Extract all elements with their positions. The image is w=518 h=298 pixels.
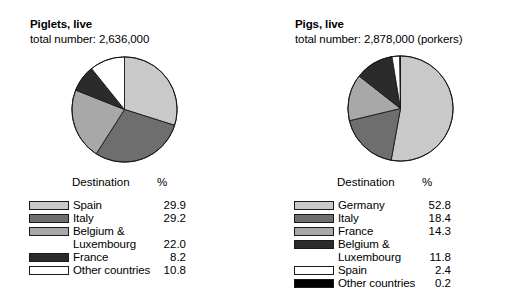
legend-item-percent: 8.2 bbox=[146, 251, 186, 263]
legend-header-row: Destination % bbox=[0, 176, 259, 192]
piglets-chart-panel: Piglets, live total number: 2,636,000 De… bbox=[0, 0, 259, 298]
legend-color-swatch bbox=[294, 201, 334, 210]
legend-item: Italy29.2 bbox=[0, 212, 259, 225]
legend-color-swatch bbox=[294, 227, 334, 236]
legend-item: Belgium & bbox=[0, 225, 259, 238]
legend-item: Other countries10.8 bbox=[0, 264, 259, 277]
legend-item-percent: 29.9 bbox=[146, 199, 186, 211]
legend-header-percent: % bbox=[422, 176, 432, 188]
legend-item-label: France bbox=[338, 225, 373, 237]
legend-item: Luxembourg11.8 bbox=[259, 251, 518, 264]
legend-color-swatch bbox=[294, 240, 334, 249]
legend-item: Luxembourg22.0 bbox=[0, 238, 259, 251]
legend-color-swatch bbox=[294, 266, 334, 275]
legend-header-row: Destination % bbox=[259, 176, 518, 192]
legend-item: France14.3 bbox=[259, 225, 518, 238]
legend-color-swatch bbox=[29, 214, 69, 223]
legend-item-label: Italy bbox=[338, 212, 359, 224]
piglets-pie-chart bbox=[71, 56, 178, 163]
legend-color-swatch bbox=[294, 214, 334, 223]
legend-item-percent: 11.8 bbox=[411, 251, 451, 263]
legend-item-label: Belgium & bbox=[73, 225, 125, 237]
right-total-number: total number: 2,878,000 (porkers) bbox=[295, 32, 462, 46]
legend-item-label: Germany bbox=[338, 199, 385, 211]
pigs-pie-svg bbox=[347, 55, 454, 162]
legend-item: Italy18.4 bbox=[259, 212, 518, 225]
legend-item-label: Belgium & bbox=[338, 238, 390, 250]
legend-item-percent: 10.8 bbox=[146, 264, 186, 276]
pigs-chart-panel: Pigs, live total number: 2,878,000 (pork… bbox=[259, 0, 518, 298]
legend-item-percent: 52.8 bbox=[411, 199, 451, 211]
legend-item: Germany52.8 bbox=[259, 199, 518, 212]
legend-item: France8.2 bbox=[0, 251, 259, 264]
pigs-legend: Destination % Germany52.8Italy18.4France… bbox=[259, 176, 518, 290]
legend-rows: Germany52.8Italy18.4France14.3Belgium &L… bbox=[259, 199, 518, 290]
page-title-secondary: Pigs, live bbox=[295, 17, 462, 31]
legend-item-label: Spain bbox=[73, 199, 102, 211]
legend-header-destination: Destination bbox=[72, 176, 130, 188]
legend-item: Spain29.9 bbox=[0, 199, 259, 212]
legend-item-label: Spain bbox=[338, 264, 367, 276]
legend-color-swatch bbox=[29, 253, 69, 262]
legend-color-swatch bbox=[29, 227, 69, 236]
piglets-legend: Destination % Spain29.9Italy29.2Belgium … bbox=[0, 176, 259, 277]
legend-item: Other countries0.2 bbox=[259, 277, 518, 290]
legend-item-label: Luxembourg bbox=[338, 251, 401, 263]
legend-item-percent: 0.2 bbox=[411, 277, 451, 289]
legend-item: Belgium & bbox=[259, 238, 518, 251]
legend-item-percent: 22.0 bbox=[146, 238, 186, 250]
legend-color-swatch bbox=[294, 279, 334, 288]
left-title-block: Piglets, live total number: 2,636,000 bbox=[30, 17, 149, 46]
legend-item-label: Italy bbox=[73, 212, 94, 224]
legend-item-label: Other countries bbox=[73, 264, 150, 276]
legend-color-swatch bbox=[29, 266, 69, 275]
piglets-pie-svg bbox=[71, 56, 178, 163]
legend-item-percent: 29.2 bbox=[146, 212, 186, 224]
legend-rows: Spain29.9Italy29.2Belgium &Luxembourg22.… bbox=[0, 199, 259, 277]
legend-header-destination: Destination bbox=[337, 176, 395, 188]
legend-item: Spain2.4 bbox=[259, 264, 518, 277]
legend-item-label: Luxembourg bbox=[73, 238, 136, 250]
legend-item-percent: 14.3 bbox=[411, 225, 451, 237]
left-total-number: total number: 2,636,000 bbox=[30, 32, 149, 46]
page-title: Piglets, live bbox=[30, 17, 149, 31]
legend-header-percent: % bbox=[157, 176, 167, 188]
right-title-block: Pigs, live total number: 2,878,000 (pork… bbox=[295, 17, 462, 46]
legend-color-swatch bbox=[29, 201, 69, 210]
legend-item-label: France bbox=[73, 251, 108, 263]
legend-item-percent: 18.4 bbox=[411, 212, 451, 224]
legend-item-percent: 2.4 bbox=[411, 264, 451, 276]
pigs-pie-chart bbox=[347, 55, 454, 162]
legend-item-label: Other countries bbox=[338, 277, 415, 289]
